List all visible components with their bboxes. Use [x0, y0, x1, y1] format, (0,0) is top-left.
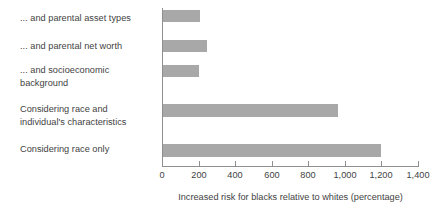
category-label-socioeconomic-background: ... and socioeconomic background	[0, 64, 152, 89]
bar-parental-asset-types	[162, 10, 200, 22]
category-label-parental-asset-types: ... and parental asset types	[0, 12, 152, 25]
bar-race-only	[162, 144, 381, 157]
x-tick-1000	[345, 161, 346, 166]
x-tick-label-600: 600	[264, 170, 279, 181]
x-tick-label-0: 0	[159, 170, 164, 181]
x-tick-0	[162, 161, 163, 166]
category-label-line: background	[20, 77, 152, 90]
x-tick-label-200: 200	[191, 170, 206, 181]
x-tick-label-1200: 1,200	[370, 170, 393, 181]
category-label-line: Considering race and	[20, 103, 152, 116]
category-label-race-and-individual-characteristics: Considering race and individual's charac…	[0, 103, 152, 128]
category-label-line: individual's characteristics	[20, 116, 152, 129]
x-axis-title: Increased risk for blacks relative to wh…	[162, 192, 419, 203]
category-axis-labels: ... and parental asset types ... and par…	[0, 0, 152, 166]
x-tick-label-1400: 1,400	[407, 170, 430, 181]
x-tick-label-1000: 1,000	[334, 170, 357, 181]
plot-area	[162, 0, 418, 166]
bar-chart: ... and parental asset types ... and par…	[0, 0, 448, 214]
x-tick-800	[308, 161, 309, 166]
x-tick-600	[272, 161, 273, 166]
x-tick-label-800: 800	[300, 170, 315, 181]
category-label-race-only: Considering race only	[0, 143, 152, 156]
x-tick-400	[235, 161, 236, 166]
category-label-line: ... and socioeconomic	[20, 64, 152, 77]
bar-socioeconomic-background	[162, 65, 199, 77]
x-tick-1200	[381, 161, 382, 166]
category-label-line: Considering race only	[20, 143, 152, 156]
category-label-line: ... and parental asset types	[20, 12, 152, 25]
x-tick-label-400: 400	[227, 170, 242, 181]
bar-parental-net-worth	[162, 40, 207, 52]
bar-race-and-individual-characteristics	[162, 104, 338, 117]
x-axis-line	[162, 166, 419, 167]
category-label-line: ... and parental net worth	[20, 40, 152, 53]
x-tick-1400	[418, 161, 419, 166]
x-tick-200	[199, 161, 200, 166]
category-label-parental-net-worth: ... and parental net worth	[0, 40, 152, 53]
y-axis-line	[162, 8, 163, 167]
